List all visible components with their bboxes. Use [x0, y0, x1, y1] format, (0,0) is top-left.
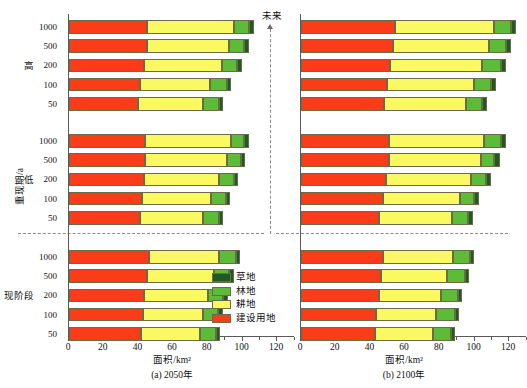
bar-segment-耕地: [395, 20, 494, 34]
bar-segment-耕地: [144, 289, 207, 303]
x-tick-label: 60: [167, 342, 177, 352]
stacked-bar: [69, 289, 228, 303]
bar-segment-林地: [489, 39, 505, 53]
stacked-bar: [301, 289, 462, 303]
x-tick-label: 100: [234, 342, 248, 352]
y-tick-label: 100: [29, 80, 57, 90]
bar-segment-耕地: [143, 308, 203, 322]
bar-segment-草地: [458, 289, 462, 303]
bar-segment-建设用地: [69, 192, 142, 206]
bar-segment-草地: [506, 39, 511, 53]
bar-segment-林地: [227, 153, 241, 167]
bar-segment-建设用地: [301, 78, 387, 92]
stacked-bar: [69, 192, 230, 206]
stacked-bar: [69, 39, 249, 53]
bar-segment-草地: [486, 173, 491, 187]
bar-segment-建设用地: [69, 327, 141, 341]
bar-segment-林地: [229, 39, 244, 53]
legend-item-耕地: 耕地: [212, 299, 276, 310]
bar-segment-建设用地: [301, 289, 379, 303]
bar-segment-草地: [216, 327, 220, 341]
bar-segment-耕地: [390, 59, 482, 73]
bar-segment-耕地: [145, 153, 227, 167]
bar-segment-耕地: [393, 39, 489, 53]
bar-segment-耕地: [389, 153, 481, 167]
bar-segment-草地: [511, 20, 516, 34]
bar-segment-草地: [482, 97, 487, 111]
x-tick-label: 80: [434, 342, 444, 352]
panel-2100: 020406080100120面积/km²(b) 2100年: [256, 0, 513, 388]
bar-segment-草地: [249, 20, 254, 34]
x-tick-label: 0: [66, 342, 71, 352]
y-tick-label: 50: [29, 213, 57, 223]
stacked-bar: [301, 97, 488, 111]
bar-segment-耕地: [376, 308, 436, 322]
panel-2050: 020406080100120100050020010050高100050020…: [0, 0, 256, 388]
bar-segment-建设用地: [69, 269, 147, 283]
bar-segment-建设用地: [301, 327, 375, 341]
stacked-bar: [69, 308, 223, 322]
bar-segment-草地: [501, 134, 506, 148]
bar-segment-耕地: [142, 192, 211, 206]
bar-segment-林地: [219, 173, 234, 187]
bar-segment-草地: [234, 173, 238, 187]
stacked-bar: [301, 211, 473, 225]
bar-segment-林地: [441, 289, 458, 303]
bar-segment-林地: [474, 78, 491, 92]
y-tick-label: 100: [29, 194, 57, 204]
bar-segment-建设用地: [69, 153, 145, 167]
bar-segment-林地: [203, 97, 219, 111]
bar-segment-建设用地: [301, 269, 381, 283]
bar-segment-耕地: [138, 97, 202, 111]
bar-segment-耕地: [384, 97, 466, 111]
bar-segment-建设用地: [69, 78, 140, 92]
legend: 草地林地耕地建设用地: [212, 272, 276, 326]
bar-segment-耕地: [386, 173, 471, 187]
bar-segment-林地: [200, 327, 216, 341]
bar-segment-林地: [203, 211, 219, 225]
bar-segment-林地: [481, 153, 495, 167]
bar-segment-林地: [471, 173, 486, 187]
stacked-bar: [69, 78, 231, 92]
stacked-bar: [69, 327, 220, 341]
bar-segment-草地: [501, 59, 506, 73]
stacked-bar: [301, 59, 506, 73]
stacked-bar: [301, 308, 459, 322]
legend-swatch: [212, 287, 231, 296]
y-tick-label: 500: [29, 155, 57, 165]
bar-segment-林地: [219, 250, 235, 264]
x-tick-label: 60: [399, 342, 409, 352]
bar-segment-草地: [474, 192, 479, 206]
stacked-bar: [301, 327, 455, 341]
panel-caption: (a) 2050年: [151, 367, 193, 381]
bar-segment-建设用地: [69, 97, 138, 111]
bar-segment-建设用地: [301, 192, 383, 206]
x-tick-label: 40: [133, 342, 143, 352]
bar-segment-建设用地: [69, 289, 144, 303]
stacked-bar: [69, 134, 249, 148]
bar-segment-耕地: [140, 78, 210, 92]
bar-segment-草地: [226, 192, 230, 206]
bar-segment-草地: [451, 327, 455, 341]
bar-segment-林地: [460, 192, 474, 206]
y-tick-label: 500: [29, 41, 57, 51]
stacked-bar: [301, 153, 500, 167]
bar-segment-耕地: [147, 269, 214, 283]
x-tick-label: 120: [501, 342, 515, 352]
stacked-bar: [69, 153, 245, 167]
bar-segment-建设用地: [301, 211, 379, 225]
group-label-低: 低: [4, 172, 34, 186]
bar-segment-耕地: [147, 39, 229, 53]
y-tick-label: 50: [29, 99, 57, 109]
bar-segment-耕地: [149, 250, 219, 264]
bar-segment-草地: [219, 211, 223, 225]
bar-segment-耕地: [144, 59, 221, 73]
bar-segment-耕地: [381, 269, 447, 283]
stacked-bar: [301, 173, 491, 187]
stacked-bar: [69, 269, 234, 283]
bar-segment-建设用地: [301, 134, 389, 148]
bar-segment-耕地: [387, 78, 474, 92]
bar-segment-建设用地: [69, 173, 144, 187]
stacked-bar: [301, 192, 479, 206]
